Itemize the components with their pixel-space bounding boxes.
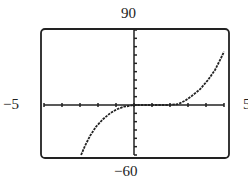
plot-area [0,0,248,182]
